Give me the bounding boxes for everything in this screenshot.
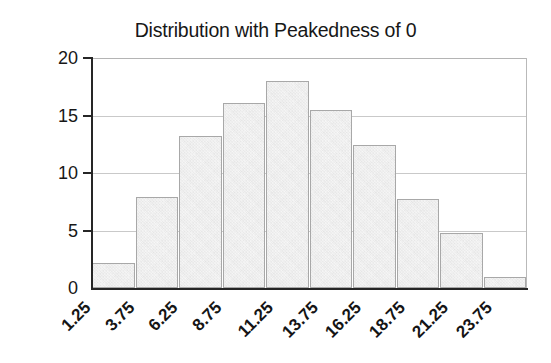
y-tick-label-15: 15 <box>40 107 78 125</box>
x-tick-label-5[interactable]: 11.25 <box>234 298 278 342</box>
bar-3[interactable] <box>179 136 222 288</box>
bar-10[interactable] <box>484 277 527 289</box>
bars-layer <box>92 58 527 288</box>
bar-6[interactable] <box>310 110 353 288</box>
x-axis-line <box>91 288 528 290</box>
x-tick-label-6[interactable]: 13.75 <box>278 298 322 342</box>
bar-2[interactable] <box>136 197 179 288</box>
bar-7[interactable] <box>353 145 396 288</box>
y-tick-label-5: 5 <box>40 222 78 240</box>
y-tick-label-0: 0 <box>40 279 78 297</box>
x-tick-label-8[interactable]: 18.75 <box>365 298 409 342</box>
bar-4[interactable] <box>223 103 266 288</box>
x-tick-label-9[interactable]: 21.25 <box>408 298 452 342</box>
y-tick-label-20: 20 <box>40 49 78 67</box>
bar-1[interactable] <box>92 263 135 288</box>
x-tick-label-4[interactable]: 8.75 <box>188 298 226 336</box>
bar-5[interactable] <box>266 81 309 288</box>
x-tick-label-2[interactable]: 3.75 <box>101 298 139 336</box>
bar-8[interactable] <box>397 199 440 288</box>
y-tick-mark-15 <box>83 115 93 117</box>
x-tick-label-10[interactable]: 23.75 <box>452 298 496 342</box>
x-tick-label-1[interactable]: 1.25 <box>58 298 96 336</box>
bar-9[interactable] <box>440 233 483 288</box>
x-tick-label-3[interactable]: 6.25 <box>145 298 183 336</box>
distribution-histogram-figure: Distribution with Peakedness of 0 % of S… <box>0 0 551 363</box>
y-tick-mark-20 <box>83 57 93 59</box>
x-tick-label-7[interactable]: 16.25 <box>321 298 365 342</box>
y-tick-label-10: 10 <box>40 164 78 182</box>
chart-title: Distribution with Peakedness of 0 <box>0 19 551 42</box>
y-tick-mark-5 <box>83 230 93 232</box>
y-tick-mark-10 <box>83 172 93 174</box>
